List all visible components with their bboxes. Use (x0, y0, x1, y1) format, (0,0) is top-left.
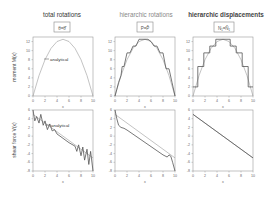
ylabel-shear: shear force V(x) (11, 122, 17, 158)
x-tick-label: 2 (44, 99, 46, 103)
x-axis-label: x (62, 105, 64, 109)
y-tick-label: 0 (188, 94, 190, 98)
x-tick-label: 4 (216, 174, 218, 178)
x-tick-label: 0 (114, 99, 116, 103)
y-tick-label: 0 (110, 94, 112, 98)
plot-area (193, 110, 253, 171)
x-axis-label: x (222, 180, 224, 184)
column-box-label: θ=θ̂ (58, 26, 67, 31)
x-tick-label: 2 (44, 174, 46, 178)
x-tick-label: 10 (91, 99, 95, 103)
y-tick-label: 4 (188, 76, 190, 80)
y-tick-label: 0 (28, 134, 30, 138)
panel-bottom-right: 02468106420-2-4-6-8x (187, 108, 255, 184)
y-tick-label: -8 (27, 169, 30, 173)
x-tick-label: 8 (162, 174, 164, 178)
y-tick-label: 2 (188, 85, 190, 89)
x-tick-label: 4 (138, 99, 140, 103)
x-tick-label: 0 (32, 174, 34, 178)
y-tick-label: 6 (110, 108, 112, 112)
column-title-total-rotations: total rotations (43, 11, 81, 18)
panel-top-left: 0246810024681012xanalytical (26, 37, 95, 109)
column-box-label: N₁=N̂₁ (218, 25, 231, 31)
x-tick-label: 4 (56, 174, 58, 178)
y-tick-label: 0 (28, 94, 30, 98)
x-tick-label: 0 (192, 174, 194, 178)
y-tick-label: 4 (188, 117, 190, 121)
y-tick-label: -4 (27, 152, 30, 156)
x-tick-label: 6 (150, 99, 152, 103)
y-tick-label: 4 (28, 76, 30, 80)
x-axis-label: x (62, 180, 64, 184)
x-tick-label: 8 (80, 99, 82, 103)
x-axis-label: x (144, 105, 146, 109)
column-box-hierarchic-displacements: N₁=N̂₁ (214, 22, 234, 32)
ylabel-moment: moment M(x) (11, 52, 17, 82)
column-title-hierarchic-displacements: hierarchic displacements (188, 11, 264, 19)
x-tick-label: 6 (68, 99, 70, 103)
y-tick-label: 8 (188, 58, 190, 62)
y-tick-label: 4 (110, 76, 112, 80)
y-tick-label: -8 (187, 169, 190, 173)
y-tick-label: -2 (109, 143, 112, 147)
column-box-label: P=P̂ (141, 25, 150, 31)
x-tick-label: 6 (150, 174, 152, 178)
y-tick-label: 4 (28, 117, 30, 121)
y-tick-label: 4 (110, 117, 112, 121)
x-tick-label: 10 (91, 174, 95, 178)
y-tick-label: 6 (110, 67, 112, 71)
x-tick-label: 4 (56, 99, 58, 103)
analytical-annotation: analytical (51, 123, 69, 128)
y-tick-label: -4 (187, 152, 190, 156)
x-tick-label: 8 (240, 174, 242, 178)
y-tick-label: -4 (109, 152, 112, 156)
x-tick-label: 0 (32, 99, 34, 103)
plot-area (33, 37, 93, 96)
y-tick-label: -8 (109, 169, 112, 173)
plot-area (115, 110, 175, 171)
x-tick-label: 6 (228, 99, 230, 103)
x-tick-label: 6 (228, 174, 230, 178)
x-tick-label: 4 (138, 174, 140, 178)
y-tick-label: 0 (110, 134, 112, 138)
column-box-total-rotations: θ=θ̂ (54, 22, 70, 32)
y-tick-label: 0 (188, 134, 190, 138)
y-tick-label: 6 (28, 108, 30, 112)
y-tick-label: 2 (28, 126, 30, 130)
x-tick-label: 6 (68, 174, 70, 178)
y-tick-label: 8 (28, 58, 30, 62)
y-tick-label: -2 (187, 143, 190, 147)
y-tick-label: 2 (110, 126, 112, 130)
x-axis-label: x (144, 180, 146, 184)
y-tick-label: 10 (108, 49, 112, 53)
x-tick-label: 10 (251, 174, 255, 178)
panel-bottom-left: 02468106420-2-4-6-8xanalytical (27, 108, 95, 184)
panel-bottom-middle: 02468106420-2-4-6-8x (109, 108, 177, 184)
y-tick-label: -2 (27, 143, 30, 147)
y-tick-label: 10 (186, 49, 190, 53)
y-tick-label: 12 (108, 40, 112, 44)
x-tick-label: 8 (162, 99, 164, 103)
panel-top-middle: 0246810024681012x (108, 37, 177, 109)
x-axis-label: x (222, 105, 224, 109)
y-tick-label: 12 (26, 40, 30, 44)
analytical-annotation: analytical (50, 57, 68, 62)
y-tick-label: 2 (28, 85, 30, 89)
y-tick-label: -6 (27, 160, 30, 164)
x-tick-label: 2 (126, 174, 128, 178)
y-tick-label: -6 (109, 160, 112, 164)
x-tick-label: 10 (173, 99, 177, 103)
figure: total rotations hierarchic rotations hie… (0, 0, 269, 203)
x-tick-label: 2 (126, 99, 128, 103)
column-title-hierarchic-rotations: hierarchic rotations (119, 11, 172, 18)
x-tick-label: 8 (80, 174, 82, 178)
y-tick-label: 2 (188, 126, 190, 130)
x-tick-label: 2 (204, 99, 206, 103)
x-tick-label: 0 (192, 99, 194, 103)
y-tick-label: 6 (28, 67, 30, 71)
y-tick-label: 10 (26, 49, 30, 53)
y-tick-label: 6 (188, 108, 190, 112)
y-tick-label: 8 (110, 58, 112, 62)
x-tick-label: 2 (204, 174, 206, 178)
y-tick-label: 6 (188, 67, 190, 71)
